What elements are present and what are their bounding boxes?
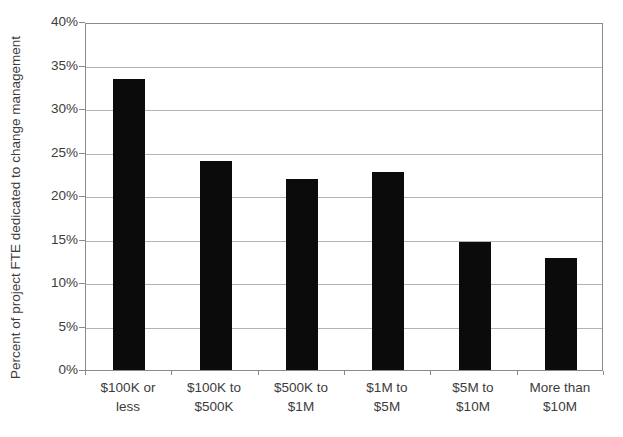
y-axis-tick xyxy=(79,22,85,23)
bar xyxy=(545,258,577,370)
x-category-label-line: $5M xyxy=(344,397,430,416)
x-axis-tick xyxy=(171,371,172,375)
x-category-label-line: $500K to xyxy=(258,378,344,397)
x-category-label-line: $500K xyxy=(171,397,257,416)
y-axis-tick xyxy=(79,66,85,67)
x-axis-tick xyxy=(344,371,345,375)
y-tick-label: 25% xyxy=(30,145,78,161)
x-category-label: $5M to$10M xyxy=(430,378,516,416)
y-tick-label: 5% xyxy=(30,319,78,335)
x-category-label: $500K to$1M xyxy=(258,378,344,416)
x-category-label-line: less xyxy=(85,397,171,416)
gridline xyxy=(86,110,602,111)
gridline xyxy=(86,154,602,155)
x-category-label: $100K orless xyxy=(85,378,171,416)
x-category-label-line: More than xyxy=(517,378,603,397)
y-axis-tick xyxy=(79,283,85,284)
bar xyxy=(286,179,318,370)
x-category-label-line: $1M to xyxy=(344,378,430,397)
bar xyxy=(200,161,232,370)
y-tick-label: 30% xyxy=(30,101,78,117)
x-axis-tick xyxy=(258,371,259,375)
x-category-label-line: $10M xyxy=(517,397,603,416)
x-category-label: More than$10M xyxy=(517,378,603,416)
y-axis-tick xyxy=(79,153,85,154)
x-category-label-line: $100K or xyxy=(85,378,171,397)
x-axis-tick xyxy=(85,371,86,375)
x-axis-tick xyxy=(430,371,431,375)
y-tick-label: 35% xyxy=(30,58,78,74)
gridline xyxy=(86,67,602,68)
x-category-label: $100K to$500K xyxy=(171,378,257,416)
y-axis-title: Percent of project FTE dedicated to chan… xyxy=(7,7,24,409)
y-tick-label: 40% xyxy=(30,14,78,30)
bar xyxy=(372,172,404,370)
x-category-label-line: $5M to xyxy=(430,378,516,397)
y-axis-tick xyxy=(79,196,85,197)
y-tick-label: 10% xyxy=(30,275,78,291)
plot-area xyxy=(85,23,603,371)
gridline xyxy=(86,241,602,242)
bar xyxy=(113,79,145,370)
bar-chart-figure: Percent of project FTE dedicated to chan… xyxy=(0,0,623,437)
x-axis-tick xyxy=(603,371,604,375)
x-category-label: $1M to$5M xyxy=(344,378,430,416)
x-category-label-line: $1M xyxy=(258,397,344,416)
y-tick-label: 15% xyxy=(30,232,78,248)
x-axis-tick xyxy=(517,371,518,375)
gridline xyxy=(86,284,602,285)
gridline xyxy=(86,328,602,329)
y-axis-tick xyxy=(79,327,85,328)
x-category-label-line: $10M xyxy=(430,397,516,416)
y-axis-tick xyxy=(79,240,85,241)
y-axis-tick xyxy=(79,109,85,110)
bar xyxy=(459,242,491,370)
y-tick-label: 0% xyxy=(30,362,78,378)
x-category-label-line: $100K to xyxy=(171,378,257,397)
y-tick-label: 20% xyxy=(30,188,78,204)
gridline xyxy=(86,197,602,198)
